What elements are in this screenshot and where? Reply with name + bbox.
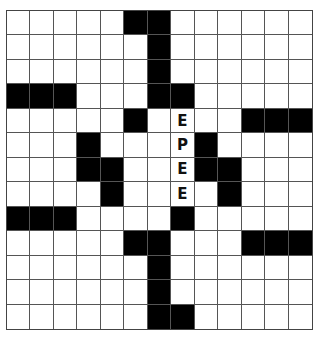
- grid-cell[interactable]: [54, 305, 77, 329]
- grid-cell[interactable]: [30, 60, 53, 84]
- grid-cell[interactable]: [242, 207, 265, 231]
- grid-cell[interactable]: [77, 11, 100, 35]
- grid-cell[interactable]: [7, 158, 30, 182]
- grid-cell[interactable]: [54, 11, 77, 35]
- grid-cell[interactable]: [101, 231, 124, 255]
- grid-cell[interactable]: [289, 256, 312, 280]
- grid-cell[interactable]: [195, 256, 218, 280]
- letter-cell[interactable]: E: [171, 109, 194, 133]
- grid-cell[interactable]: [54, 280, 77, 304]
- grid-cell[interactable]: [218, 133, 241, 157]
- grid-cell[interactable]: [77, 305, 100, 329]
- grid-cell[interactable]: [242, 256, 265, 280]
- grid-cell[interactable]: [124, 182, 147, 206]
- grid-cell[interactable]: [7, 182, 30, 206]
- grid-cell[interactable]: [7, 305, 30, 329]
- grid-cell[interactable]: [30, 109, 53, 133]
- grid-cell[interactable]: [242, 305, 265, 329]
- grid-cell[interactable]: [101, 207, 124, 231]
- grid-cell[interactable]: [124, 280, 147, 304]
- grid-cell[interactable]: [195, 231, 218, 255]
- grid-cell[interactable]: [265, 207, 288, 231]
- grid-cell[interactable]: [218, 305, 241, 329]
- grid-cell[interactable]: [124, 305, 147, 329]
- letter-cell[interactable]: P: [171, 133, 194, 157]
- grid-cell[interactable]: [101, 256, 124, 280]
- grid-cell[interactable]: [265, 256, 288, 280]
- grid-cell[interactable]: [30, 280, 53, 304]
- grid-cell[interactable]: [265, 60, 288, 84]
- grid-cell[interactable]: [30, 256, 53, 280]
- grid-cell[interactable]: [54, 60, 77, 84]
- grid-cell[interactable]: [77, 256, 100, 280]
- grid-cell[interactable]: [101, 84, 124, 108]
- grid-cell[interactable]: [148, 182, 171, 206]
- grid-cell[interactable]: [77, 35, 100, 59]
- grid-cell[interactable]: [242, 35, 265, 59]
- grid-cell[interactable]: [218, 60, 241, 84]
- grid-cell[interactable]: [289, 60, 312, 84]
- grid-cell[interactable]: [171, 11, 194, 35]
- grid-cell[interactable]: [289, 280, 312, 304]
- grid-cell[interactable]: [195, 11, 218, 35]
- grid-cell[interactable]: [289, 35, 312, 59]
- grid-cell[interactable]: [7, 133, 30, 157]
- grid-cell[interactable]: [242, 158, 265, 182]
- grid-cell[interactable]: [265, 35, 288, 59]
- grid-cell[interactable]: [7, 280, 30, 304]
- grid-cell[interactable]: [54, 256, 77, 280]
- grid-cell[interactable]: [289, 133, 312, 157]
- grid-cell[interactable]: [30, 133, 53, 157]
- grid-cell[interactable]: [171, 256, 194, 280]
- grid-cell[interactable]: [101, 60, 124, 84]
- grid-cell[interactable]: [195, 182, 218, 206]
- grid-cell[interactable]: [289, 84, 312, 108]
- grid-cell[interactable]: [148, 109, 171, 133]
- grid-cell[interactable]: [30, 231, 53, 255]
- grid-cell[interactable]: [54, 231, 77, 255]
- grid-cell[interactable]: [77, 231, 100, 255]
- grid-cell[interactable]: [242, 280, 265, 304]
- grid-cell[interactable]: [124, 256, 147, 280]
- grid-cell[interactable]: [124, 84, 147, 108]
- grid-cell[interactable]: [171, 35, 194, 59]
- grid-cell[interactable]: [124, 133, 147, 157]
- grid-cell[interactable]: [54, 35, 77, 59]
- grid-cell[interactable]: [124, 35, 147, 59]
- grid-cell[interactable]: [289, 158, 312, 182]
- grid-cell[interactable]: [265, 84, 288, 108]
- grid-cell[interactable]: [148, 158, 171, 182]
- grid-cell[interactable]: [30, 182, 53, 206]
- grid-cell[interactable]: [148, 133, 171, 157]
- grid-cell[interactable]: [265, 11, 288, 35]
- grid-cell[interactable]: [77, 207, 100, 231]
- grid-cell[interactable]: [124, 207, 147, 231]
- grid-cell[interactable]: [218, 11, 241, 35]
- grid-cell[interactable]: [242, 133, 265, 157]
- grid-cell[interactable]: [101, 305, 124, 329]
- grid-cell[interactable]: [171, 231, 194, 255]
- grid-cell[interactable]: [30, 305, 53, 329]
- grid-cell[interactable]: [242, 11, 265, 35]
- grid-cell[interactable]: [54, 133, 77, 157]
- grid-cell[interactable]: [77, 60, 100, 84]
- grid-cell[interactable]: [7, 35, 30, 59]
- grid-cell[interactable]: [195, 305, 218, 329]
- grid-cell[interactable]: [54, 109, 77, 133]
- grid-cell[interactable]: [171, 60, 194, 84]
- grid-cell[interactable]: [77, 182, 100, 206]
- grid-cell[interactable]: [242, 84, 265, 108]
- grid-cell[interactable]: [242, 60, 265, 84]
- grid-cell[interactable]: [124, 158, 147, 182]
- grid-cell[interactable]: [218, 35, 241, 59]
- grid-cell[interactable]: [218, 231, 241, 255]
- grid-cell[interactable]: [218, 256, 241, 280]
- grid-cell[interactable]: [7, 231, 30, 255]
- grid-cell[interactable]: [265, 133, 288, 157]
- grid-cell[interactable]: [171, 280, 194, 304]
- grid-cell[interactable]: [195, 60, 218, 84]
- grid-cell[interactable]: [101, 280, 124, 304]
- grid-cell[interactable]: [101, 109, 124, 133]
- grid-cell[interactable]: [195, 84, 218, 108]
- grid-cell[interactable]: [289, 11, 312, 35]
